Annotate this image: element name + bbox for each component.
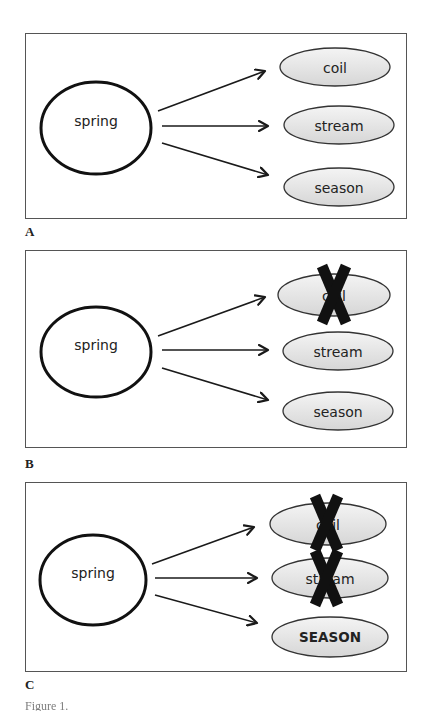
target-node-season: season <box>284 168 394 206</box>
panel-c: spring coil stream SEASON <box>40 496 388 657</box>
arrow-to-coil <box>152 527 254 564</box>
arrows <box>158 71 268 175</box>
target-node-season-emphasized: SEASON <box>272 617 388 657</box>
panel-a: spring coil stream season <box>41 48 394 206</box>
arrows <box>158 297 268 400</box>
arrow-to-season <box>155 595 257 623</box>
arrow-to-season <box>162 143 268 175</box>
arrow-to-coil <box>158 71 265 111</box>
arrows <box>152 527 257 623</box>
panel-b: spring coil stream season <box>41 266 393 430</box>
target-node-label: season <box>313 404 362 420</box>
target-node-label: stream <box>314 118 363 134</box>
target-node-coil: coil <box>278 266 390 323</box>
target-node-label: coil <box>323 60 347 76</box>
target-node-season: season <box>283 392 393 430</box>
target-node-stream: stream <box>283 332 393 370</box>
target-node-label: stream <box>313 344 362 360</box>
arrow-to-season <box>162 368 268 400</box>
target-node-coil: coil <box>280 48 390 86</box>
source-node-spring: spring <box>41 82 151 174</box>
source-node-label: spring <box>71 565 115 581</box>
source-node-spring: spring <box>40 535 146 625</box>
target-node-label: SEASON <box>299 629 361 645</box>
target-node-stream: stream <box>272 551 388 605</box>
source-node-label: spring <box>74 113 118 129</box>
target-node-stream: stream <box>284 106 394 144</box>
figure-caption-partial: Figure 1. <box>25 699 405 711</box>
source-node-label: spring <box>74 337 118 353</box>
target-node-coil: coil <box>270 496 386 550</box>
arrow-to-coil <box>158 297 265 336</box>
source-node-spring: spring <box>41 307 151 397</box>
target-node-label: season <box>314 180 363 196</box>
